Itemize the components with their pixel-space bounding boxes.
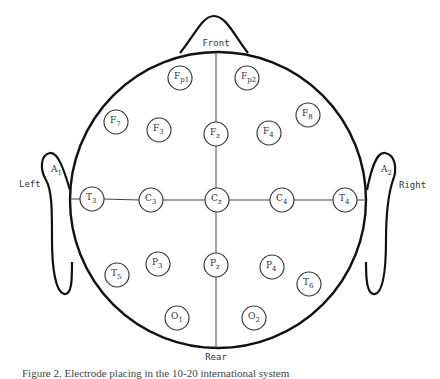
right-label: Right — [399, 180, 426, 190]
electrode-f3: F3 — [147, 118, 171, 142]
electrode-o2: O2 — [242, 306, 266, 330]
coronal-t3-c3 — [104, 199, 139, 200]
electrode-fz: Fz — [204, 122, 228, 146]
electrode-o1: O1 — [165, 306, 189, 330]
electrode-fp2: Fp2 — [235, 66, 259, 90]
ear-label-a2: A2 — [380, 164, 392, 177]
electrode-t6: T6 — [297, 272, 321, 296]
electrode-fp1: Fp1 — [168, 66, 192, 90]
electrode-t3: T3 — [80, 187, 104, 211]
left-label: Left — [19, 179, 41, 189]
electrode-f8: F8 — [296, 103, 320, 127]
rear-label: Rear — [205, 352, 227, 362]
front-label: Front — [202, 38, 229, 48]
figure-caption: Figure 2. Electrode placing in the 10-20… — [22, 367, 289, 379]
electrode-c4: C4 — [270, 188, 294, 212]
ear-label-a1: A1 — [50, 164, 62, 177]
electrode-f4: F4 — [257, 121, 281, 145]
electrode-f7: F7 — [104, 110, 128, 134]
electrode-cz: Cz — [205, 188, 229, 212]
electrode-t5: T5 — [105, 263, 129, 287]
electrode-p4: P4 — [260, 255, 284, 279]
electrode-p3: P3 — [146, 252, 170, 276]
electrode-pz: Pz — [204, 253, 228, 277]
electrode-t4: T4 — [333, 188, 357, 212]
electrode-c3: C3 — [139, 188, 163, 212]
electrode-group: Fp1Fp2F7F3FzF4F8T3C3CzC4T4T5P3PzP4T6O1O2 — [80, 66, 357, 330]
